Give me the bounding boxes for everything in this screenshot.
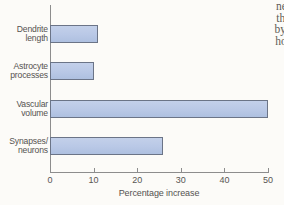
x-axis-title: Percentage increase	[50, 188, 268, 198]
x-tick	[50, 168, 51, 173]
category-label-line: volume	[0, 109, 48, 118]
x-tick	[181, 168, 182, 173]
bar-vascular-volume[interactable]	[50, 100, 268, 118]
bar-chart: Dendrite length Astrocyte processes Vasc…	[0, 0, 284, 205]
x-tick-label: 50	[256, 175, 280, 185]
category-label-line: processes	[0, 71, 48, 80]
x-tick	[268, 168, 269, 173]
x-tick-label: 0	[38, 175, 62, 185]
category-label-vascular-volume: Vascular volume	[0, 100, 48, 119]
bar-astrocyte-processes[interactable]	[50, 62, 94, 80]
category-label-line: length	[0, 34, 48, 43]
x-tick-label: 40	[212, 175, 236, 185]
bar-synapses-neurons[interactable]	[50, 137, 163, 155]
x-tick	[137, 168, 138, 173]
category-label-dendrite-length: Dendrite length	[0, 25, 48, 44]
category-label-line: neurons	[0, 146, 48, 155]
category-label-synapses-neurons: Synapses/ neurons	[0, 137, 48, 156]
x-tick-label: 10	[82, 175, 106, 185]
x-tick	[94, 168, 95, 173]
bar-dendrite-length[interactable]	[50, 25, 98, 43]
x-tick-label: 20	[125, 175, 149, 185]
x-tick	[224, 168, 225, 173]
x-tick-label: 30	[169, 175, 193, 185]
category-label-astrocyte-processes: Astrocyte processes	[0, 62, 48, 81]
x-axis-line	[50, 172, 268, 173]
